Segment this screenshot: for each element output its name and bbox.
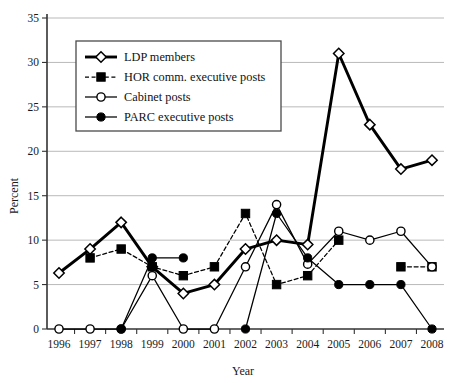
data-point-circle-open — [241, 263, 249, 271]
data-point-square-filled — [272, 280, 280, 288]
data-point-circle-filled — [97, 113, 105, 121]
y-tick-label: 10 — [28, 234, 40, 246]
legend-label: PARC executive posts — [124, 110, 234, 124]
data-point-circle-filled — [335, 280, 343, 288]
data-point-circle-filled — [397, 280, 405, 288]
data-point-circle-open — [148, 272, 156, 280]
legend-label: HOR comm. executive posts — [124, 70, 266, 84]
data-point-square-filled — [210, 263, 218, 271]
data-point-circle-open — [210, 325, 218, 333]
line-chart: 05101520253035 1996199719981999200020012… — [0, 0, 451, 383]
y-tick-label: 20 — [28, 145, 40, 157]
legend-item[interactable]: LDP members — [85, 50, 195, 64]
x-axis-title: Year — [232, 364, 254, 378]
y-tick-label: 30 — [28, 56, 40, 68]
x-tick-label: 2004 — [296, 338, 319, 350]
x-tick-label: 1999 — [141, 338, 164, 350]
data-point-circle-open — [55, 325, 63, 333]
data-point-circle-filled — [117, 325, 125, 333]
x-tick-label: 2003 — [265, 338, 288, 350]
x-tick-label: 2000 — [172, 338, 195, 350]
chart-canvas: 05101520253035 1996199719981999200020012… — [0, 0, 451, 383]
data-point-circle-filled — [304, 254, 312, 262]
y-tick-label: 35 — [28, 12, 40, 24]
data-point-circle-filled — [148, 254, 156, 262]
data-point-square-filled — [241, 209, 249, 217]
data-point-circle-open — [397, 227, 405, 235]
y-tick-label: 15 — [28, 190, 40, 202]
x-tick-label: 2007 — [389, 338, 412, 350]
x-tick-label: 1996 — [48, 338, 71, 350]
data-point-circle-filled — [179, 254, 187, 262]
x-tick-label: 2006 — [358, 338, 381, 350]
data-point-square-filled — [335, 236, 343, 244]
x-tick-label: 2001 — [203, 338, 226, 350]
data-point-circle-open — [97, 93, 105, 101]
data-point-square-filled — [117, 245, 125, 253]
data-point-circle-open — [428, 263, 436, 271]
data-point-circle-open — [86, 325, 94, 333]
data-point-square-filled — [97, 73, 105, 81]
x-tick-label: 2002 — [234, 338, 257, 350]
y-tick-label: 25 — [28, 101, 40, 113]
data-point-circle-open — [272, 201, 280, 209]
x-tick-label: 2005 — [327, 338, 350, 350]
y-axis-title: Percent — [7, 177, 21, 214]
data-point-circle-filled — [428, 325, 436, 333]
x-tick-label: 1998 — [110, 338, 133, 350]
data-point-circle-open — [366, 236, 374, 244]
data-point-circle-filled — [241, 325, 249, 333]
data-point-circle-filled — [366, 280, 374, 288]
data-point-square-filled — [397, 263, 405, 271]
x-tick-label: 1997 — [79, 338, 102, 350]
data-point-circle-open — [335, 227, 343, 235]
data-point-square-filled — [86, 254, 94, 262]
y-tick-label: 5 — [33, 279, 39, 291]
data-point-circle-filled — [272, 209, 280, 217]
chart-legend: LDP membersHOR comm. executive postsCabi… — [76, 41, 281, 131]
legend-label: Cabinet posts — [124, 90, 191, 104]
legend-label: LDP members — [124, 50, 195, 64]
x-tick-label: 2008 — [421, 338, 444, 350]
data-point-square-filled — [179, 271, 187, 279]
data-point-circle-open — [179, 325, 187, 333]
y-tick-label: 0 — [33, 323, 39, 335]
data-point-square-filled — [303, 271, 311, 279]
